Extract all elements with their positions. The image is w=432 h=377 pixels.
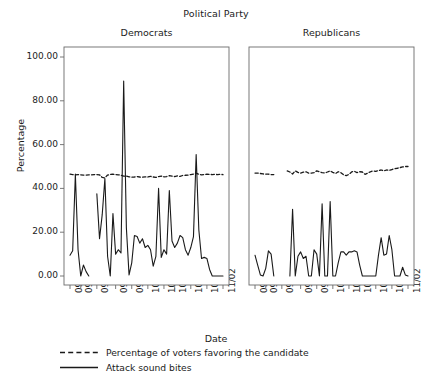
legend-item-voters: Percentage of voters favoring the candid… <box>58 345 432 360</box>
x-tick-label: 09/16 <box>285 268 295 293</box>
x-tick-label: 10/11 <box>352 268 362 293</box>
panel-label-democrats: Democrats <box>64 27 229 38</box>
solid-line-icon <box>58 360 100 375</box>
x-axis-tick-labels-republicans: 09/0609/1009/1609/2309/2910/0510/1110/15… <box>0 288 432 334</box>
x-tick-label: 09/10 <box>269 268 279 293</box>
y-tick-label: 100.00 <box>2 51 58 61</box>
x-tick-label: 10/27 <box>395 268 405 293</box>
x-tick-label: 10/15 <box>363 268 373 293</box>
y-tick-label: 0.00 <box>2 270 58 280</box>
legend-item-attack: Attack sound bites <box>58 360 432 375</box>
x-axis-title: Date <box>0 333 432 344</box>
y-tick-label: 40.00 <box>2 182 58 192</box>
y-axis-tick-labels: 0.0020.0040.0060.0080.00100.00 <box>0 0 58 300</box>
x-tick-label: 09/23 <box>304 268 314 293</box>
x-tick-label: 11/02 <box>412 268 422 293</box>
chart-figure: Political Party Democrats Republicans Pe… <box>0 0 432 377</box>
y-tick-label: 80.00 <box>2 95 58 105</box>
dashed-line-icon <box>58 345 100 360</box>
y-tick-label: 20.00 <box>2 226 58 236</box>
x-tick-label: 10/05 <box>336 268 346 293</box>
panel-label-republicans: Republicans <box>249 27 414 38</box>
x-tick-label: 09/06 <box>259 268 269 293</box>
legend-label-voters: Percentage of voters favoring the candid… <box>106 345 309 360</box>
chart-title: Political Party <box>0 8 432 19</box>
legend-label-attack: Attack sound bites <box>106 360 191 375</box>
x-tick-label: 09/29 <box>320 268 330 293</box>
x-tick-label: 10/21 <box>379 268 389 293</box>
chart-legend: Percentage of voters favoring the candid… <box>58 345 432 375</box>
y-tick-label: 60.00 <box>2 139 58 149</box>
